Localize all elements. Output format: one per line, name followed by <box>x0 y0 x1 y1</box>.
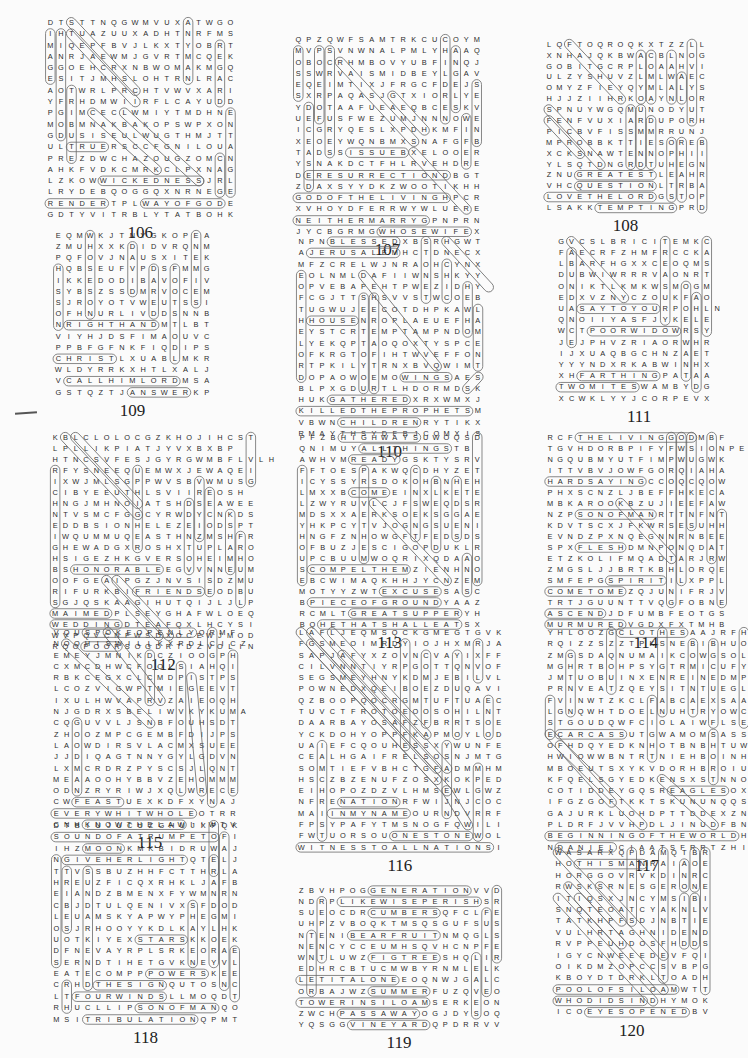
grid-letter: B <box>472 136 483 147</box>
grid-letter: I <box>616 476 626 487</box>
grid-letter: N <box>545 509 555 520</box>
grid-letter: I <box>410 638 420 649</box>
grid-letter: F <box>658 938 669 949</box>
grid-letter: V <box>421 349 431 360</box>
grid-letter <box>737 597 747 608</box>
grid-letter: L <box>398 158 409 169</box>
grid-letter: E <box>492 941 502 952</box>
grid-letter: O <box>564 984 575 995</box>
grid-letter: E <box>176 774 186 785</box>
grid-letter: K <box>462 774 472 785</box>
grid-letter: U <box>162 17 173 28</box>
grid-letter: M <box>83 843 94 854</box>
grid-letter: A <box>587 370 597 381</box>
grid-letter: G <box>707 608 717 619</box>
grid-letter: Q <box>207 763 217 774</box>
grid-letter: T <box>122 487 132 498</box>
grid-letter: A <box>688 627 698 638</box>
grid-letter: F <box>676 597 686 608</box>
grid-letter: W <box>681 337 691 348</box>
grid-letter: J <box>72 923 83 934</box>
grid-letter: L <box>138 375 149 386</box>
grid-letter: Z <box>77 153 88 164</box>
grid-letter: A <box>575 498 585 509</box>
grid-letter: O <box>328 465 338 476</box>
word-search-puzzle-109: EQMWKJTNYGKOPEAZMUHXXKDIDVRQNMPQFOVJNAUS… <box>53 230 212 421</box>
grid-letter: P <box>134 695 144 706</box>
grid-letter: N <box>452 830 462 841</box>
grid-letter: Y <box>335 136 346 147</box>
grid-letter: N <box>566 314 576 325</box>
grid-letter: R <box>698 706 708 717</box>
grid-letter <box>266 641 276 652</box>
grid-letter: U <box>82 717 92 728</box>
grid-letter: F <box>400 729 410 740</box>
grid-letter: A <box>639 359 649 370</box>
grid-letter: L <box>165 661 175 672</box>
grid-letter: R <box>379 394 389 405</box>
grid-letter: H <box>369 432 379 443</box>
grid-letter: V <box>191 331 202 342</box>
grid-letter: A <box>577 258 587 269</box>
grid-letter: E <box>82 796 92 807</box>
grid-letter: O <box>297 542 307 553</box>
grid-letter: S <box>390 509 400 520</box>
grid-letter: F <box>679 950 690 961</box>
grid-letter: D <box>679 1006 690 1017</box>
grid-letter: E <box>338 405 348 416</box>
grid-letter: L <box>193 141 204 152</box>
grid-letter: N <box>338 796 348 807</box>
grid-letter: N <box>85 308 96 319</box>
grid-letter: O <box>701 292 711 303</box>
grid-letter: M <box>701 281 711 292</box>
grid-letter: B <box>698 751 708 762</box>
grid-letter: C <box>379 542 389 553</box>
grid-letter: E <box>451 203 462 214</box>
grid-letter: E <box>473 338 483 349</box>
grid-letter: M <box>377 68 388 79</box>
grid-letter: A <box>410 326 420 337</box>
grid-letter <box>472 443 482 454</box>
grid-letter: H <box>440 192 451 203</box>
grid-letter: B <box>130 209 141 220</box>
grid-letter: O <box>196 808 206 819</box>
grid-letter: M <box>660 381 670 392</box>
grid-letter: A <box>91 542 101 553</box>
grid-letter: F <box>85 342 96 353</box>
grid-letter: M <box>167 831 178 842</box>
grid-letter: V <box>194 564 204 575</box>
grid-letter: G <box>400 695 410 706</box>
grid-letter: R <box>409 952 419 963</box>
grid-letter: A <box>666 61 676 72</box>
grid-letter: R <box>409 1019 419 1030</box>
grid-letter: H <box>53 264 64 275</box>
grid-letter: Z <box>153 432 163 443</box>
grid-letter: E <box>626 170 636 181</box>
grid-letter: B <box>708 638 718 649</box>
grid-letter: T <box>109 209 120 220</box>
grid-letter: M <box>155 672 165 683</box>
grid-letter: O <box>56 119 67 130</box>
grid-letter: G <box>646 531 656 542</box>
grid-letter: N <box>576 695 586 706</box>
grid-letter: V <box>101 454 111 465</box>
grid-letter: A <box>676 170 686 181</box>
grid-letter: Q <box>681 258 691 269</box>
grid-letter: X <box>606 520 616 531</box>
grid-letter: C <box>566 326 576 337</box>
grid-letter: K <box>639 281 649 292</box>
grid-letter: F <box>134 661 144 672</box>
grid-letter: R <box>690 870 701 881</box>
grid-letter: N <box>327 270 337 281</box>
grid-letter: K <box>125 843 136 854</box>
grid-letter: N <box>441 476 451 487</box>
grid-letter: O <box>106 275 117 286</box>
grid-letter: L <box>697 39 707 50</box>
grid-letter: D <box>690 972 701 983</box>
grid-letter: R <box>473 638 483 649</box>
grid-letter: F <box>388 79 399 90</box>
grid-letter: R <box>687 202 697 213</box>
grid-letter: C <box>554 148 564 159</box>
grid-letter: T <box>228 763 238 774</box>
grid-letter: R <box>492 896 502 907</box>
